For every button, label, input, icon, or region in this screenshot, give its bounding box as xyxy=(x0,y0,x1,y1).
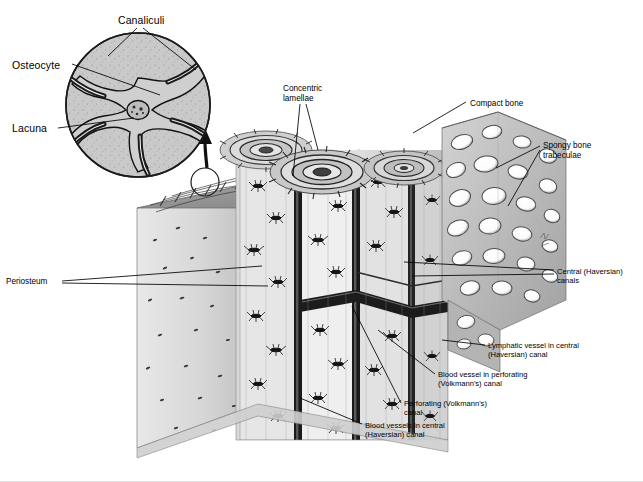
nucleus xyxy=(127,101,149,120)
osteon-region xyxy=(236,150,448,440)
magnify-source-circle xyxy=(191,168,219,196)
label-concentric-lamellae: Concentric lamellae xyxy=(283,84,322,103)
label-blood-vessels-central: Blood vessels in central (Haversian) can… xyxy=(365,422,445,440)
label-blood-vessel-perforating: Blood vessel in perforating (Volkmann's)… xyxy=(438,371,528,389)
bone-illustration xyxy=(0,0,643,482)
label-osteocyte: Osteocyte xyxy=(12,59,60,71)
label-perforating-canal: Perforating (Volkmann's) canal xyxy=(404,400,487,418)
label-lymphatic-vessel: Lymphatic vessel in central (Haversian) … xyxy=(488,342,579,360)
label-periosteum: Periosteum xyxy=(6,277,47,287)
label-spongy-bone-trabeculae: Spongy bone trabeculae xyxy=(543,141,591,160)
label-compact-bone: Compact bone xyxy=(470,99,523,109)
osteocyte-detail-inset xyxy=(66,33,212,177)
label-lacuna: Lacuna xyxy=(12,122,47,134)
label-canaliculi: Canaliculi xyxy=(118,14,165,26)
bone-histology-figure: Canaliculi Osteocyte Lacuna Concentric l… xyxy=(0,0,643,482)
label-central-haversian-canals: Central (Haversian) canals xyxy=(557,268,623,286)
